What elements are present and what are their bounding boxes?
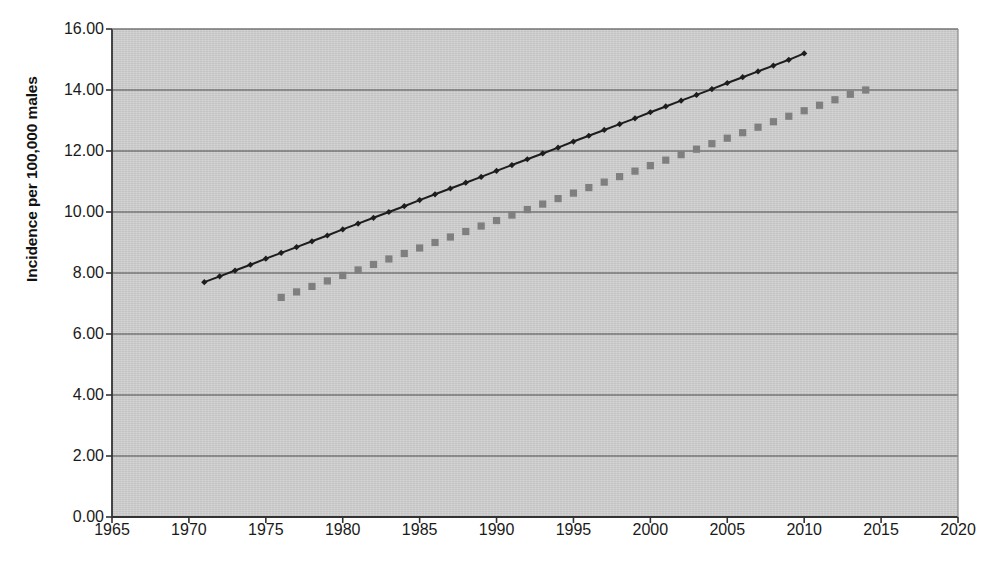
data-point-square: [447, 233, 454, 240]
data-point-diamond: [647, 109, 653, 115]
data-point-diamond: [524, 156, 530, 162]
data-point-square: [324, 277, 331, 284]
data-point-diamond: [770, 63, 776, 69]
data-point-diamond: [570, 138, 576, 144]
data-point-diamond: [801, 50, 807, 56]
data-point-diamond: [632, 115, 638, 121]
data-point-square: [401, 250, 408, 257]
plot-svg: [0, 0, 995, 577]
data-point-square: [339, 272, 346, 279]
data-point-square: [708, 140, 715, 147]
series-square: [278, 86, 870, 301]
data-point-square: [431, 239, 438, 246]
data-point-diamond: [509, 162, 515, 168]
data-point-square: [616, 173, 623, 180]
data-point-square: [370, 261, 377, 268]
data-point-square: [816, 102, 823, 109]
data-point-square: [693, 146, 700, 153]
data-point-square: [308, 283, 315, 290]
data-point-square: [539, 200, 546, 207]
data-point-diamond: [678, 98, 684, 104]
data-point-diamond: [724, 80, 730, 86]
data-point-square: [601, 179, 608, 186]
data-point-diamond: [740, 74, 746, 80]
data-point-diamond: [786, 57, 792, 63]
data-point-diamond: [709, 86, 715, 92]
data-point-square: [570, 189, 577, 196]
data-point-diamond: [601, 127, 607, 133]
data-point-square: [801, 107, 808, 114]
data-point-diamond: [278, 250, 284, 256]
data-point-square: [724, 135, 731, 142]
data-point-square: [278, 294, 285, 301]
data-point-diamond: [340, 226, 346, 232]
data-point-diamond: [586, 133, 592, 139]
data-point-square: [355, 266, 362, 273]
data-point-diamond: [493, 168, 499, 174]
data-point-diamond: [293, 244, 299, 250]
data-point-square: [478, 222, 485, 229]
chart-figure: Incidence per 100,000 males 0.002.004.00…: [0, 0, 995, 577]
data-point-square: [416, 244, 423, 251]
data-point-diamond: [247, 262, 253, 268]
data-point-square: [385, 255, 392, 262]
data-point-square: [831, 96, 838, 103]
data-point-square: [293, 288, 300, 295]
data-point-diamond: [432, 191, 438, 197]
data-point-square: [739, 129, 746, 136]
data-point-square: [862, 86, 869, 93]
data-point-diamond: [401, 203, 407, 209]
data-point-diamond: [417, 197, 423, 203]
data-point-square: [524, 206, 531, 213]
data-point-diamond: [217, 273, 223, 279]
data-point-diamond: [617, 121, 623, 127]
data-point-diamond: [324, 232, 330, 238]
data-point-square: [662, 157, 669, 164]
data-point-diamond: [263, 256, 269, 262]
data-point-diamond: [386, 209, 392, 215]
data-point-diamond: [555, 145, 561, 151]
data-point-diamond: [663, 103, 669, 109]
data-point-diamond: [355, 220, 361, 226]
data-point-diamond: [693, 92, 699, 98]
data-point-diamond: [447, 185, 453, 191]
data-point-square: [554, 195, 561, 202]
data-point-square: [631, 168, 638, 175]
data-point-diamond: [201, 279, 207, 285]
data-point-diamond: [463, 180, 469, 186]
data-point-diamond: [755, 68, 761, 74]
data-point-square: [785, 113, 792, 120]
data-point-diamond: [370, 215, 376, 221]
series-diamond: [201, 50, 807, 285]
data-point-square: [847, 91, 854, 98]
data-point-square: [493, 217, 500, 224]
data-point-square: [585, 184, 592, 191]
data-point-square: [770, 118, 777, 125]
data-point-square: [678, 151, 685, 158]
data-point-diamond: [478, 174, 484, 180]
data-point-square: [647, 162, 654, 169]
data-point-diamond: [309, 238, 315, 244]
data-point-square: [462, 228, 469, 235]
data-point-square: [754, 124, 761, 131]
data-point-square: [508, 211, 515, 218]
